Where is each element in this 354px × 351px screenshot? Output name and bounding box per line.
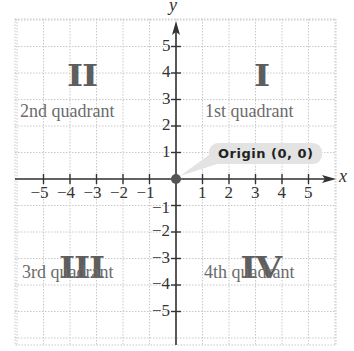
x-axis-label: x [339, 166, 347, 187]
x-tick-label: −5 [31, 183, 49, 203]
x-tick-label: 4 [278, 183, 287, 203]
quadrant-label-2: 2nd quadrant [20, 101, 114, 122]
y-tick-label: −2 [152, 221, 170, 241]
x-tick-label: −2 [110, 183, 128, 203]
y-tick-label: −5 [152, 301, 170, 321]
y-tick-label: 3 [162, 89, 171, 109]
x-tick-label: 5 [304, 183, 313, 203]
origin-callout: Origin (0, 0) [209, 143, 322, 164]
coordinate-plane-figure: y x −5−4−3−2−112345 54321−1−2−3−4−5 I 1s… [0, 0, 354, 351]
y-tick-label: −1 [152, 198, 170, 218]
x-tick-label: 2 [225, 183, 234, 203]
y-tick-label: 1 [162, 142, 171, 162]
origin-point [171, 174, 181, 184]
quadrant-label-3: 3rd quadrant [22, 262, 113, 283]
x-tick-label: 1 [198, 183, 207, 203]
y-axis-label: y [169, 0, 177, 16]
origin-callout-text: Origin (0, 0) [218, 146, 313, 161]
y-tick-label: −4 [152, 274, 170, 294]
y-tick-label: 5 [162, 36, 171, 56]
quadrant-numeral-1: I [254, 58, 269, 93]
quadrant-label-4: 4th quadrant [204, 262, 294, 283]
y-tick-label: 2 [162, 115, 171, 135]
quadrant-label-1: 1st quadrant [205, 101, 293, 122]
x-tick-label: −3 [84, 183, 102, 203]
x-tick-label: 3 [251, 183, 260, 203]
y-tick-label: 4 [162, 62, 171, 82]
x-tick-label: −4 [57, 183, 75, 203]
plot-svg [0, 0, 354, 351]
y-tick-label: −3 [152, 248, 170, 268]
quadrant-numeral-2: II [67, 58, 97, 93]
